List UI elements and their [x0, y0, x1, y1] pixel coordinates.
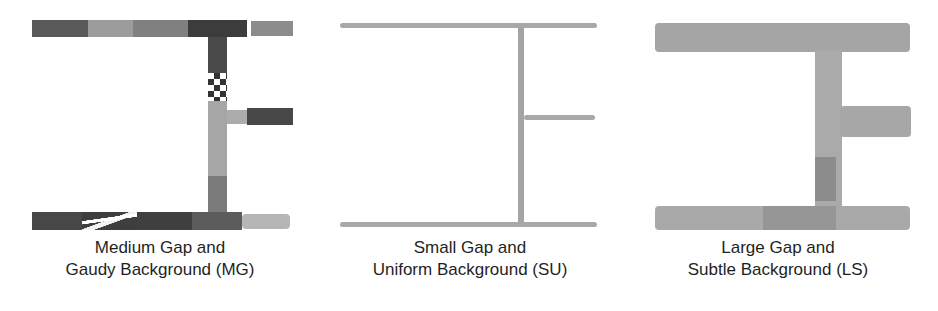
mg-caption-line-2: Gaudy Background (MG) [20, 259, 300, 281]
su-middle-stub [524, 115, 595, 120]
mg-top-bar-seg-3 [133, 20, 188, 37]
panel-mg: Medium Gap and Gaudy Background (MG) [0, 0, 320, 311]
mg-bottom-bar-seg-3 [137, 212, 192, 230]
su-caption-line-1: Small Gap and [330, 237, 610, 259]
ls-bottom-dark-section [763, 206, 836, 230]
mg-top-bar-seg-4 [188, 20, 247, 37]
mg-vertical-bar-checker [208, 73, 227, 101]
mg-top-bar-seg-2 [88, 20, 133, 37]
su-caption-line-2: Uniform Background (SU) [330, 259, 610, 281]
panel-su: Small Gap and Uniform Background (SU) [320, 0, 620, 311]
mg-right-stub [247, 108, 293, 125]
mg-top-bar-seg-5 [251, 21, 293, 36]
mg-vertical-bar-lower [208, 176, 227, 212]
mg-right-stub-connector [227, 110, 247, 124]
mg-bottom-bar-seg-1 [32, 212, 82, 230]
panel-ls: Large Gap and Subtle Background (LS) [620, 0, 938, 311]
su-top-line [340, 23, 597, 28]
ls-right-stub [840, 106, 911, 137]
mg-bottom-bar-seg-2 [82, 212, 137, 230]
ls-caption-line-1: Large Gap and [638, 237, 918, 259]
mg-vertical-bar-middle [208, 101, 227, 176]
mg-bottom-bar-seg-5 [242, 214, 290, 229]
mg-vertical-bar-upper [208, 37, 227, 73]
mg-caption: Medium Gap and Gaudy Background (MG) [20, 237, 300, 281]
su-vertical-line [518, 27, 524, 225]
ls-vertical-dark-block [815, 157, 836, 201]
mg-top-bar-seg-1 [32, 20, 88, 37]
su-caption: Small Gap and Uniform Background (SU) [330, 237, 610, 281]
ls-top-bar [655, 23, 910, 52]
mg-caption-line-1: Medium Gap and [20, 237, 300, 259]
ls-caption: Large Gap and Subtle Background (LS) [638, 237, 918, 281]
mg-bottom-bar-seg-4 [192, 212, 242, 230]
su-bottom-line [340, 222, 597, 227]
ls-caption-line-2: Subtle Background (LS) [638, 259, 918, 281]
